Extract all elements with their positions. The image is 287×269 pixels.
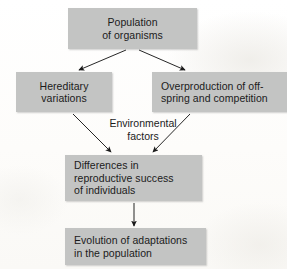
node-overproduction-and-competition[interactable]: Overproduction of off- spring and compet… <box>152 72 287 112</box>
label-environmental-factors: Environmental factors <box>86 117 200 142</box>
node-hereditary-line-1: Hereditary <box>40 80 89 92</box>
arrow-population-to-hereditary <box>79 50 126 70</box>
node-hereditary-line-2: variations <box>41 92 86 104</box>
label-environmental-line-1: Environmental <box>109 117 176 129</box>
node-population-line-1: Population <box>107 16 157 28</box>
node-evolution-line-2: in the population <box>74 247 206 259</box>
node-differences-line-1: Differences in <box>74 159 202 171</box>
node-evolution-of-adaptations[interactable]: Evolution of adaptations in the populati… <box>65 228 206 265</box>
arrow-population-to-overproduction <box>139 50 185 70</box>
node-overproduction-line-1: Overproduction of off- <box>161 80 287 92</box>
node-differences-line-2: reproductive success <box>74 172 202 184</box>
node-differences-line-3: of individuals <box>74 184 202 196</box>
node-population-line-2: of organisms <box>102 29 163 41</box>
node-hereditary-variations[interactable]: Hereditary variations <box>16 72 112 112</box>
node-population-of-organisms[interactable]: Population of organisms <box>68 8 197 49</box>
natural-selection-diagram: Population of organisms Hereditary varia… <box>0 0 287 269</box>
node-overproduction-line-2: spring and competition <box>161 92 287 104</box>
node-evolution-line-1: Evolution of adaptations <box>74 234 206 246</box>
node-differences-in-reproductive-success[interactable]: Differences in reproductive success of i… <box>65 155 202 201</box>
label-environmental-line-2: factors <box>127 130 159 142</box>
